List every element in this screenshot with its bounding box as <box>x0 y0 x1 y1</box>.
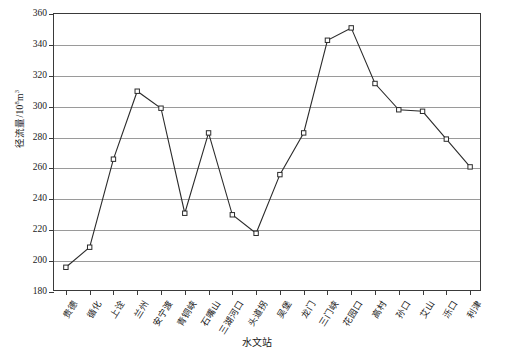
data-point-marker <box>278 172 282 176</box>
data-point-marker <box>230 213 234 217</box>
y-axis-title-base: 径流量/10 <box>15 104 25 148</box>
data-point-marker <box>301 131 305 135</box>
data-point-marker <box>111 157 115 161</box>
x-axis-tick-label: 循化 <box>83 298 104 320</box>
y-axis-tick-label: 220 <box>33 225 47 235</box>
data-point-marker <box>159 106 163 110</box>
x-axis-tick-label: 孙口 <box>392 298 413 320</box>
y-axis-tick-label: 260 <box>33 164 47 174</box>
data-point-marker <box>87 245 91 249</box>
data-point-marker <box>420 109 424 113</box>
y-axis-tick <box>49 292 54 293</box>
y-axis-tick-label: 320 <box>33 71 47 81</box>
x-axis-tick-label: 高村 <box>368 298 389 320</box>
data-point-marker <box>135 89 139 93</box>
x-axis-tick-label: 头道拐 <box>244 298 270 328</box>
x-axis-tick-label: 利津 <box>463 298 484 320</box>
x-axis-tick-label: 兰州 <box>130 298 151 320</box>
data-point-marker <box>254 231 258 235</box>
y-axis-tick-label: 240 <box>33 195 47 205</box>
y-axis-title-exponent: 8 <box>13 101 20 105</box>
data-point-marker <box>444 137 448 141</box>
x-axis-tick-label: 艾山 <box>416 298 437 320</box>
x-axis-tick-label: 安宁渡 <box>149 298 175 328</box>
runoff-line-chart: 径流量/108m3 360340320300280260240220200180… <box>0 0 513 355</box>
x-axis-tick-label: 泺口 <box>440 298 461 320</box>
x-axis-title: 水文站 <box>0 334 513 349</box>
y-axis-title-unit-exponent: 3 <box>13 90 20 94</box>
x-axis-tick-label: 吴堡 <box>273 298 294 320</box>
x-axis-tick-label: 龙门 <box>297 298 318 320</box>
plot-area: 360340320300280260240220200180 <box>53 13 481 291</box>
data-point-marker <box>468 165 472 169</box>
data-point-marker <box>64 265 68 269</box>
data-point-marker <box>373 81 377 85</box>
y-axis-tick-label: 180 <box>33 287 47 297</box>
data-point-marker <box>183 211 187 215</box>
data-series-layer <box>54 14 482 292</box>
data-point-marker <box>206 131 210 135</box>
y-axis-title: 径流量/108m3 <box>12 54 26 184</box>
x-axis-tick-label: 三门峡 <box>316 298 342 328</box>
x-axis-tick-label: 花园口 <box>340 298 366 328</box>
y-axis-tick-label: 340 <box>33 40 47 50</box>
y-axis-tick-label: 360 <box>33 9 47 19</box>
data-point-marker <box>325 38 329 42</box>
y-axis-tick-label: 300 <box>33 102 47 112</box>
data-point-marker <box>397 108 401 112</box>
x-axis-tick-label: 青铜峡 <box>173 298 199 328</box>
x-axis-tick-label: 上诠 <box>107 298 128 320</box>
data-point-marker <box>349 26 353 30</box>
y-axis-tick-label: 280 <box>33 133 47 143</box>
y-axis-title-unit: m <box>15 93 25 101</box>
y-axis-tick-label: 200 <box>33 256 47 266</box>
series-line <box>66 28 470 267</box>
x-axis-tick-label: 贵德 <box>59 298 80 320</box>
